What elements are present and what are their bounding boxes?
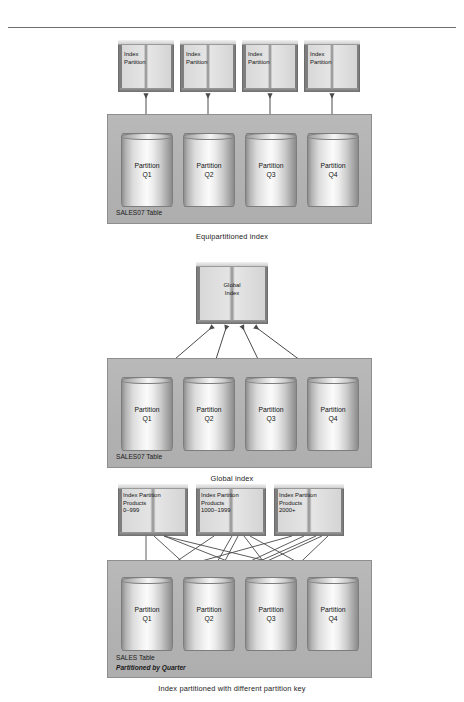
index-book-label-line2: Partition bbox=[186, 59, 208, 67]
table-row: Partition Q2 bbox=[183, 377, 235, 451]
partition-label: Partition Q1 bbox=[135, 161, 160, 179]
partition-label-line1: Partition bbox=[259, 161, 284, 170]
index-book-label: Index Partition bbox=[124, 51, 146, 66]
index-book-label-line1: Index bbox=[248, 51, 270, 59]
table-row: Partition Q4 bbox=[307, 577, 359, 651]
table-row: Partition Q3 bbox=[245, 577, 297, 651]
partition-label-line1: Partition bbox=[197, 405, 222, 414]
index-book-label-line2: Partition bbox=[248, 59, 270, 67]
partition-label-line2: Q2 bbox=[197, 414, 222, 423]
partition-label: Partition Q2 bbox=[197, 605, 222, 623]
partition-label-line1: Partition bbox=[259, 405, 284, 414]
index-book-label-line1: Index bbox=[310, 51, 332, 59]
cylinder-top-ellipse bbox=[307, 377, 359, 384]
partition-label-line2: Q1 bbox=[135, 414, 160, 423]
table-row: Partition Q3 bbox=[245, 133, 297, 207]
index-book-label-line2: Products bbox=[279, 500, 317, 508]
partition-label: Partition Q1 bbox=[135, 605, 160, 623]
table-partition-key-label: Partitioned by Quarter bbox=[116, 664, 186, 671]
cylinder-top-ellipse bbox=[183, 577, 235, 584]
global-index-label-line1: Global bbox=[196, 282, 268, 290]
partition-label-line2: Q3 bbox=[259, 614, 284, 623]
index-book-label-line1: Index Partition bbox=[279, 492, 317, 500]
table-name-label: SALES07 Table bbox=[116, 453, 162, 460]
partition-label: Partition Q1 bbox=[135, 405, 160, 423]
partition-label: Partition Q4 bbox=[321, 605, 346, 623]
index-book-label-line2: Partition bbox=[124, 59, 146, 67]
cylinder-top-ellipse bbox=[307, 133, 359, 140]
index-book-label-line3: 2000+ bbox=[279, 507, 317, 515]
cylinder-top-ellipse bbox=[121, 377, 173, 384]
partition-label-line1: Partition bbox=[321, 605, 346, 614]
partition-label-line2: Q4 bbox=[321, 614, 346, 623]
index-book-label-line1: Index Partition bbox=[123, 492, 161, 500]
partition-label-line2: Q1 bbox=[135, 170, 160, 179]
partition-label: Partition Q4 bbox=[321, 405, 346, 423]
cylinder-top-ellipse bbox=[245, 133, 297, 140]
partition-label-line2: Q1 bbox=[135, 614, 160, 623]
index-book-label-line3: 1000–1999 bbox=[201, 507, 239, 515]
index-book-label-line2: Products bbox=[123, 500, 161, 508]
cylinder-top-ellipse bbox=[121, 133, 173, 140]
figure-index-partitioned-different-key: Index Partition Products 0–999 Index Par… bbox=[0, 478, 464, 684]
index-book-label: Index Partition Products 0–999 bbox=[123, 492, 161, 515]
partition-label: Partition Q3 bbox=[259, 161, 284, 179]
global-index-label: Global Index bbox=[196, 282, 268, 297]
index-book-label-line3: 0–999 bbox=[123, 507, 161, 515]
index-book-label: Index Partition bbox=[186, 51, 208, 66]
index-book-label: Index Partition Products 2000+ bbox=[279, 492, 317, 515]
index-book-label: Index Partition Products 1000–1999 bbox=[201, 492, 239, 515]
index-book-label: Index Partition bbox=[248, 51, 270, 66]
table-row: Partition Q2 bbox=[183, 577, 235, 651]
table-name-label: SALES07 Table bbox=[116, 209, 162, 216]
cylinder-top-ellipse bbox=[245, 577, 297, 584]
partition-label-line1: Partition bbox=[135, 405, 160, 414]
partition-label-line2: Q3 bbox=[259, 170, 284, 179]
partition-label: Partition Q3 bbox=[259, 405, 284, 423]
figure-global-index: Global Index Partition Q1 Part bbox=[0, 262, 464, 462]
partition-label: Partition Q3 bbox=[259, 605, 284, 623]
table-row: Partition Q1 bbox=[121, 377, 173, 451]
cylinder-top-ellipse bbox=[183, 133, 235, 140]
table-row: Partition Q1 bbox=[121, 133, 173, 207]
index-book-label-line1: Index bbox=[124, 51, 146, 59]
cylinder-top-ellipse bbox=[307, 577, 359, 584]
sales-table-container: Partition Q1 Partition Q2 Partition Q3 P… bbox=[107, 560, 372, 678]
figure-caption: Equipartitioned index bbox=[0, 232, 464, 241]
partition-label-line1: Partition bbox=[197, 161, 222, 170]
partition-label-line2: Q2 bbox=[197, 614, 222, 623]
partition-label-line2: Q4 bbox=[321, 414, 346, 423]
partition-label-line2: Q3 bbox=[259, 414, 284, 423]
partition-label-line1: Partition bbox=[321, 405, 346, 414]
partition-label-line1: Partition bbox=[135, 161, 160, 170]
table-row: Partition Q4 bbox=[307, 377, 359, 451]
partition-label-line2: Q4 bbox=[321, 170, 346, 179]
global-index-label-line2: Index bbox=[196, 290, 268, 298]
page-horizontal-rule bbox=[8, 27, 456, 28]
partition-label-line1: Partition bbox=[135, 605, 160, 614]
table-row: Partition Q4 bbox=[307, 133, 359, 207]
table-row: Partition Q3 bbox=[245, 377, 297, 451]
partition-label: Partition Q2 bbox=[197, 161, 222, 179]
index-book-label-line1: Index Partition bbox=[201, 492, 239, 500]
figure-equipartitioned-index: Index Partition Index Partition Index Pa… bbox=[0, 36, 464, 246]
sales-table-container: Partition Q1 Partition Q2 Partition Q3 P… bbox=[107, 358, 372, 468]
partition-label-line1: Partition bbox=[197, 605, 222, 614]
partition-label-line1: Partition bbox=[321, 161, 346, 170]
index-book-label: Index Partition bbox=[310, 51, 332, 66]
figure-caption: Index partitioned with different partiti… bbox=[0, 684, 464, 693]
cylinder-top-ellipse bbox=[183, 377, 235, 384]
partition-label: Partition Q2 bbox=[197, 405, 222, 423]
table-row: Partition Q1 bbox=[121, 577, 173, 651]
partition-label-line1: Partition bbox=[259, 605, 284, 614]
table-row: Partition Q2 bbox=[183, 133, 235, 207]
cylinder-top-ellipse bbox=[245, 377, 297, 384]
table-name-label: SALES Table bbox=[116, 654, 155, 661]
partition-label-line2: Q2 bbox=[197, 170, 222, 179]
index-book-label-line2: Partition bbox=[310, 59, 332, 67]
partition-label: Partition Q4 bbox=[321, 161, 346, 179]
index-book-label-line1: Index bbox=[186, 51, 208, 59]
cylinder-top-ellipse bbox=[121, 577, 173, 584]
sales-table-container: Partition Q1 Partition Q2 Partition Q3 P… bbox=[107, 114, 372, 224]
index-book-label-line2: Products bbox=[201, 500, 239, 508]
